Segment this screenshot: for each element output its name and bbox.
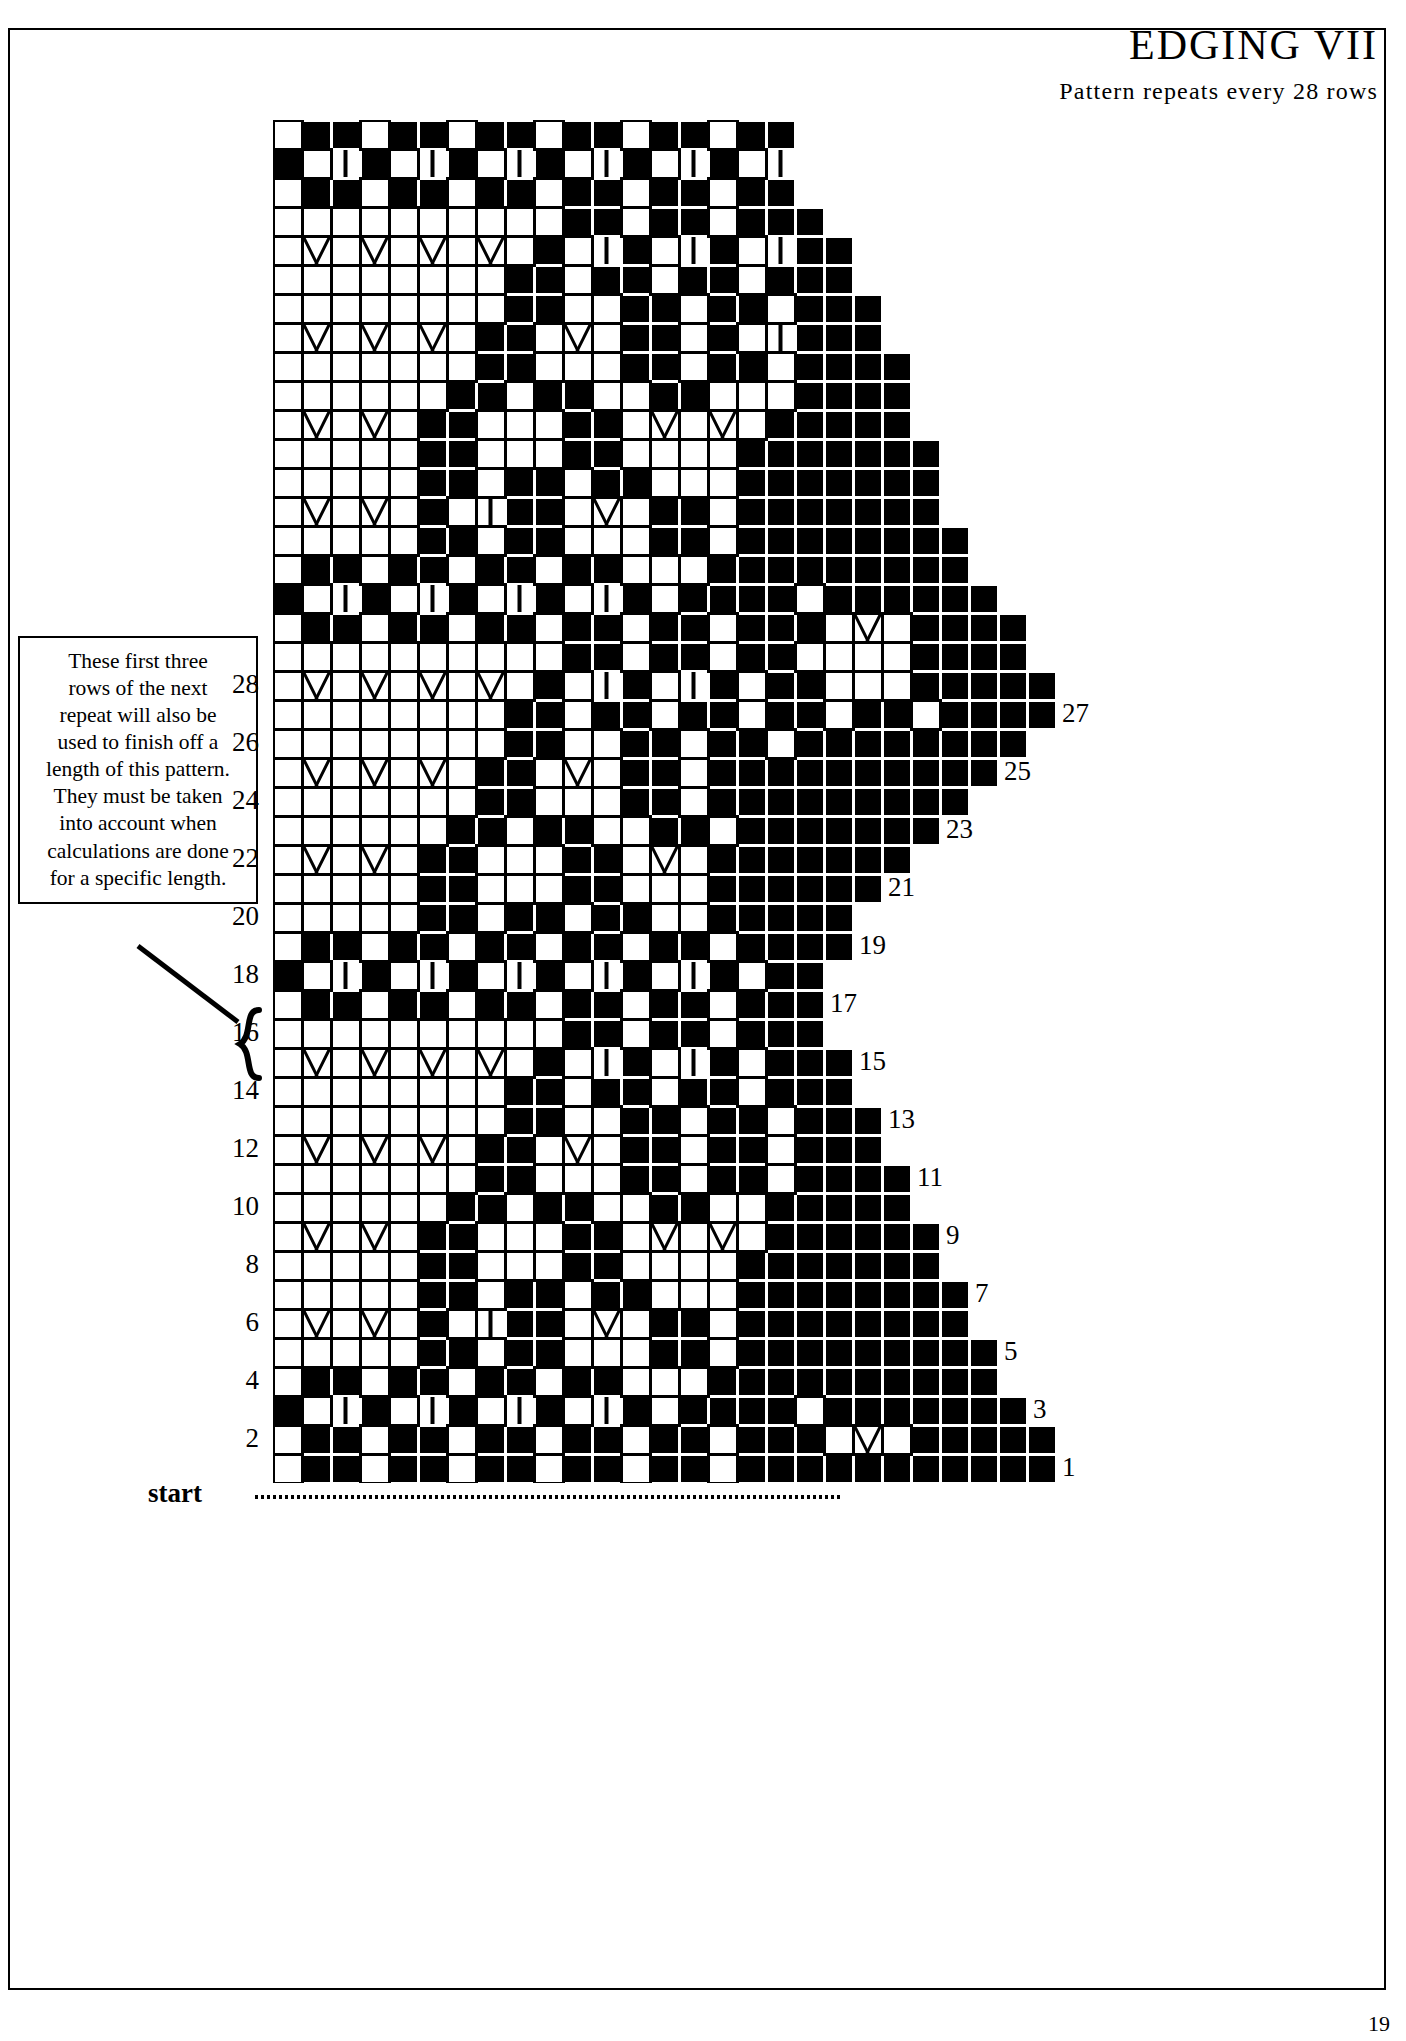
chart-cell-filled[interactable] — [855, 354, 881, 380]
chart-cell-filled[interactable] — [826, 383, 852, 409]
chart-cell-open[interactable] — [302, 787, 331, 816]
chart-cell-filled[interactable] — [362, 963, 388, 989]
chart-cell-open[interactable] — [389, 758, 418, 787]
chart-cell-open[interactable] — [592, 758, 621, 787]
chart-cell-open[interactable] — [621, 178, 650, 207]
chart-cell-open[interactable] — [708, 1019, 737, 1048]
chart-cell-filled[interactable] — [420, 412, 446, 438]
chart-cell-filled[interactable] — [913, 1340, 939, 1366]
chart-cell-open[interactable] — [331, 642, 360, 671]
chart-cell-open[interactable] — [708, 1454, 737, 1483]
chart-cell-open[interactable] — [273, 1193, 302, 1222]
chart-cell-filled[interactable] — [739, 499, 765, 525]
chart-cell-filled[interactable] — [710, 905, 736, 931]
chart-cell-filled[interactable] — [942, 760, 968, 786]
chart-cell-filled[interactable] — [797, 470, 823, 496]
chart-cell-filled[interactable] — [855, 441, 881, 467]
chart-cell-filled[interactable] — [797, 818, 823, 844]
chart-cell-filled[interactable] — [565, 1456, 591, 1482]
chart-cell-filled[interactable] — [507, 1456, 533, 1482]
chart-cell-filled[interactable] — [623, 1050, 649, 1076]
chart-cell-open[interactable] — [302, 526, 331, 555]
chart-cell-filled[interactable] — [420, 557, 446, 583]
chart-cell-filled[interactable] — [768, 963, 794, 989]
chart-cell-open[interactable] — [708, 613, 737, 642]
chart-cell-filled[interactable] — [768, 1369, 794, 1395]
chart-cell-filled[interactable] — [420, 934, 446, 960]
chart-cell-open[interactable] — [273, 990, 302, 1019]
chart-cell-filled[interactable] — [826, 789, 852, 815]
chart-cell-filled[interactable] — [884, 470, 910, 496]
chart-cell-filled[interactable] — [797, 934, 823, 960]
chart-cell-open[interactable] — [273, 1077, 302, 1106]
chart-cell-filled[interactable] — [826, 238, 852, 264]
chart-cell-open[interactable] — [476, 700, 505, 729]
chart-cell-open[interactable] — [302, 1164, 331, 1193]
chart-cell-filled[interactable] — [768, 1282, 794, 1308]
chart-cell-filled[interactable] — [449, 151, 475, 177]
chart-cell-filled[interactable] — [913, 1369, 939, 1395]
chart-cell-open[interactable] — [476, 526, 505, 555]
chart-cell-open[interactable] — [302, 642, 331, 671]
chart-cell-open[interactable] — [447, 1454, 476, 1483]
chart-cell-filled[interactable] — [942, 1456, 968, 1482]
chart-cell-open[interactable] — [302, 1251, 331, 1280]
chart-cell-filled[interactable] — [942, 1340, 968, 1366]
chart-cell-open[interactable] — [592, 729, 621, 758]
chart-cell-filled[interactable] — [942, 557, 968, 583]
chart-cell-filled[interactable] — [942, 1311, 968, 1337]
chart-cell-open[interactable] — [418, 1164, 447, 1193]
chart-cell-filled[interactable] — [681, 586, 707, 612]
chart-cell-filled[interactable] — [652, 1311, 678, 1337]
chart-cell-filled[interactable] — [739, 122, 765, 148]
chart-cell-filled[interactable] — [333, 615, 359, 641]
chart-cell-filled[interactable] — [739, 1340, 765, 1366]
chart-cell-filled[interactable] — [681, 383, 707, 409]
chart-cell-filled[interactable] — [304, 615, 330, 641]
chart-cell-filled[interactable] — [507, 354, 533, 380]
chart-cell-open[interactable] — [331, 1019, 360, 1048]
chart-cell-open[interactable] — [389, 526, 418, 555]
chart-cell-filled[interactable] — [478, 354, 504, 380]
chart-cell-filled[interactable] — [710, 702, 736, 728]
chart-cell-open[interactable] — [389, 729, 418, 758]
chart-cell-filled[interactable] — [623, 789, 649, 815]
chart-cell-filled[interactable] — [855, 760, 881, 786]
chart-cell-filled[interactable] — [884, 499, 910, 525]
chart-cell-open[interactable] — [679, 874, 708, 903]
chart-cell-open[interactable] — [534, 120, 563, 149]
chart-cell-open[interactable] — [708, 1338, 737, 1367]
chart-cell-open[interactable] — [273, 1222, 302, 1251]
chart-cell-open[interactable] — [534, 1164, 563, 1193]
chart-cell-filled[interactable] — [536, 673, 562, 699]
chart-cell-open[interactable] — [505, 207, 534, 236]
chart-cell-open[interactable] — [331, 1164, 360, 1193]
chart-cell-open[interactable] — [302, 729, 331, 758]
chart-cell-open[interactable] — [534, 1135, 563, 1164]
chart-cell-filled[interactable] — [739, 1398, 765, 1424]
chart-cell-open[interactable] — [273, 1251, 302, 1280]
chart-cell-filled[interactable] — [710, 731, 736, 757]
chart-cell-open[interactable] — [679, 410, 708, 439]
chart-cell-open[interactable] — [592, 1164, 621, 1193]
chart-cell-open[interactable] — [737, 1222, 766, 1251]
chart-cell-filled[interactable] — [507, 267, 533, 293]
chart-cell-filled[interactable] — [971, 702, 997, 728]
chart-cell-open[interactable] — [505, 1193, 534, 1222]
chart-cell-filled[interactable] — [797, 615, 823, 641]
chart-cell-filled[interactable] — [420, 1224, 446, 1250]
chart-cell-open[interactable] — [447, 1019, 476, 1048]
chart-cell-filled[interactable] — [739, 209, 765, 235]
chart-cell-open[interactable] — [679, 439, 708, 468]
chart-cell-open[interactable] — [737, 700, 766, 729]
chart-cell-open[interactable] — [447, 990, 476, 1019]
chart-cell-filled[interactable] — [362, 586, 388, 612]
chart-cell-open[interactable] — [302, 874, 331, 903]
chart-cell-open[interactable] — [534, 845, 563, 874]
chart-cell-filled[interactable] — [275, 586, 301, 612]
chart-cell-filled[interactable] — [623, 586, 649, 612]
chart-cell-filled[interactable] — [565, 1369, 591, 1395]
chart-cell-filled[interactable] — [971, 644, 997, 670]
chart-cell-open[interactable] — [679, 729, 708, 758]
chart-cell-open[interactable] — [476, 294, 505, 323]
